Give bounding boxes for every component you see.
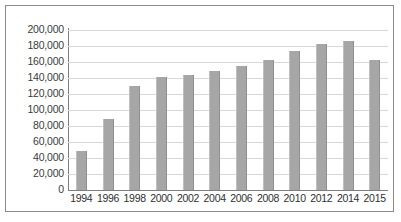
y-tick-label: 0 bbox=[8, 184, 64, 194]
x-tick-label: 1994 bbox=[70, 192, 92, 205]
y-tick-label: 100,000 bbox=[8, 104, 64, 114]
x-tick-label: 2012 bbox=[310, 192, 332, 205]
bar bbox=[183, 75, 194, 190]
x-tick-label: 2008 bbox=[257, 192, 279, 205]
x-tick-label: 1996 bbox=[97, 192, 119, 205]
x-tick-label: 2002 bbox=[177, 192, 199, 205]
gridline bbox=[68, 126, 388, 127]
gridline bbox=[68, 110, 388, 111]
x-axis-labels: 1994199619982000200220042006200820102012… bbox=[68, 192, 388, 210]
bar bbox=[129, 86, 140, 190]
x-tick-label: 2015 bbox=[364, 192, 386, 205]
x-tick-label: 2004 bbox=[204, 192, 226, 205]
gridline bbox=[68, 158, 388, 159]
bar bbox=[289, 51, 300, 190]
gridline bbox=[68, 62, 388, 63]
y-axis-labels: 200,000 180,000 160,000 140,000 120,000 … bbox=[6, 6, 64, 213]
plot-area bbox=[68, 30, 388, 190]
x-tick-label: 2006 bbox=[230, 192, 252, 205]
bar bbox=[236, 66, 247, 190]
y-tick-label: 160,000 bbox=[8, 56, 64, 66]
bar bbox=[76, 151, 87, 190]
y-tick-label: 180,000 bbox=[8, 40, 64, 50]
bar bbox=[343, 41, 354, 190]
y-tick-label: 80,000 bbox=[8, 120, 64, 130]
x-tick-label: 2010 bbox=[284, 192, 306, 205]
gridline bbox=[68, 142, 388, 143]
x-tick-label: 2000 bbox=[150, 192, 172, 205]
y-tick-label: 20,000 bbox=[8, 168, 64, 178]
gridline bbox=[68, 174, 388, 175]
bar bbox=[156, 77, 167, 190]
bar bbox=[316, 44, 327, 190]
x-tick-label: 2014 bbox=[337, 192, 359, 205]
x-tick-label: 1998 bbox=[124, 192, 146, 205]
bar bbox=[263, 60, 274, 190]
chart-frame: 200,000 180,000 160,000 140,000 120,000 … bbox=[5, 5, 394, 212]
y-tick-label: 40,000 bbox=[8, 152, 64, 162]
gridline bbox=[68, 46, 388, 47]
y-tick-label: 200,000 bbox=[8, 24, 64, 34]
bar bbox=[209, 71, 220, 190]
y-tick-label: 140,000 bbox=[8, 72, 64, 82]
y-tick-label: 120,000 bbox=[8, 88, 64, 98]
y-tick-label: 60,000 bbox=[8, 136, 64, 146]
x-axis-line bbox=[68, 190, 388, 191]
bar bbox=[369, 60, 380, 190]
gridline bbox=[68, 94, 388, 95]
gridline bbox=[68, 30, 388, 31]
gridline bbox=[68, 78, 388, 79]
bar bbox=[103, 119, 114, 190]
